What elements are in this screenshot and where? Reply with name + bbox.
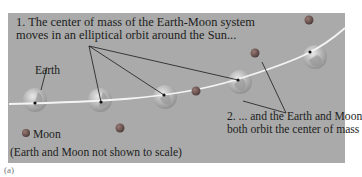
caption-step1: 1. The center of mass of the Earth-Moon …: [16, 16, 255, 42]
caption-step2-line2: both orbit the center of mass: [227, 123, 362, 136]
moon-icon: [251, 49, 260, 58]
earth-label: Earth: [35, 64, 60, 77]
earth-icon: [153, 85, 177, 109]
caption-step1-line2: moves in an elliptical orbit around the …: [16, 29, 255, 42]
moon-label: Moon: [33, 128, 61, 141]
earth-icon: [228, 70, 252, 94]
scale-note: (Earth and Moon not shown to scale): [10, 146, 182, 159]
moon-icon: [192, 87, 201, 96]
caption-step2-line1: 2. ... and the Earth and Moon: [227, 110, 362, 123]
legend-moon-icon: [22, 129, 30, 137]
moon-icon: [116, 124, 125, 133]
moon-icon: [305, 16, 314, 25]
earth-icon: [23, 88, 47, 112]
caption-step2: 2. ... and the Earth and Moon both orbit…: [227, 110, 362, 136]
figure-label: (a): [4, 164, 14, 177]
